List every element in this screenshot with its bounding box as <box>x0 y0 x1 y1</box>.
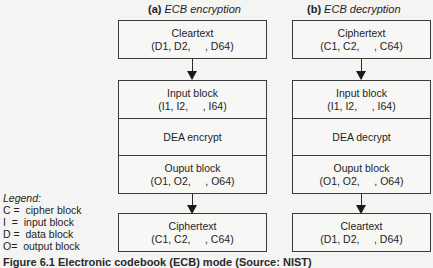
decryption-title: (b) ECB decryption <box>307 3 401 15</box>
legend-item: O= output block <box>3 240 82 252</box>
legend-title: Legend: <box>3 192 82 204</box>
box-values: (C1, C2, , C64) <box>151 233 233 246</box>
arrow-down-icon <box>192 59 193 79</box>
encryption-label-letter: (a) <box>148 3 161 15</box>
section-values: (I1, I2, , I64) <box>327 100 395 113</box>
operation-section: DEA decrypt <box>293 119 430 156</box>
box-title: Cleartext <box>171 27 213 40</box>
section-title: Ouput block <box>164 162 220 175</box>
ciphertext-output-box: Ciphertext (C1, C2, , C64) <box>118 213 267 252</box>
input-block-section: Input block (I1, I2, , I64) <box>119 81 266 119</box>
box-title: Cleartext <box>340 220 382 233</box>
encryption-title: (a) ECB encryption <box>148 3 241 15</box>
ciphertext-input-box: Ciphertext (C1, C2, , C64) <box>292 20 431 59</box>
box-values: (C1, C2, , C64) <box>320 40 402 53</box>
output-block-section: Ouput block (O1, O2, , O64) <box>293 156 430 193</box>
legend-item: D = data block <box>3 228 82 240</box>
legend-item: C = cipher block <box>3 204 82 216</box>
encryption-label-text: ECB encryption <box>165 3 241 15</box>
section-values: (O1, O2, , O64) <box>319 175 403 188</box>
box-values: (D1, D2, , D64) <box>320 233 402 246</box>
section-title: Input block <box>167 87 218 100</box>
section-title: Ouput block <box>333 162 389 175</box>
legend: Legend: C = cipher block I = input block… <box>3 192 82 252</box>
box-title: Ciphertext <box>169 220 217 233</box>
section-values: (I1, I2, , I64) <box>158 100 226 113</box>
operation-section: DEA encrypt <box>119 119 266 156</box>
decryption-label-letter: (b) <box>307 3 321 15</box>
box-values: (D1, D2, , D64) <box>151 40 233 53</box>
cleartext-input-box: Cleartext (D1, D2, , D64) <box>118 20 267 59</box>
arrow-down-icon <box>192 194 193 213</box>
output-block-section: Ouput block (O1, O2, , O64) <box>119 156 266 193</box>
section-title: Input block <box>336 87 387 100</box>
arrow-down-icon <box>361 194 362 213</box>
input-block-section: Input block (I1, I2, , I64) <box>293 81 430 119</box>
arrow-down-icon <box>361 59 362 79</box>
figure-caption: Figure 6.1 Electronic codebook (ECB) mod… <box>3 256 312 268</box>
decryption-label-text: ECB decryption <box>324 3 400 15</box>
dea-encrypt-block: Input block (I1, I2, , I64) DEA encrypt … <box>118 80 267 194</box>
operation-label: DEA encrypt <box>163 131 221 144</box>
operation-label: DEA decrypt <box>332 131 390 144</box>
box-title: Ciphertext <box>338 27 386 40</box>
legend-item: I = input block <box>3 216 82 228</box>
cleartext-output-box: Cleartext (D1, D2, , D64) <box>292 213 431 252</box>
section-values: (O1, O2, , O64) <box>150 175 234 188</box>
dea-decrypt-block: Input block (I1, I2, , I64) DEA decrypt … <box>292 80 431 194</box>
